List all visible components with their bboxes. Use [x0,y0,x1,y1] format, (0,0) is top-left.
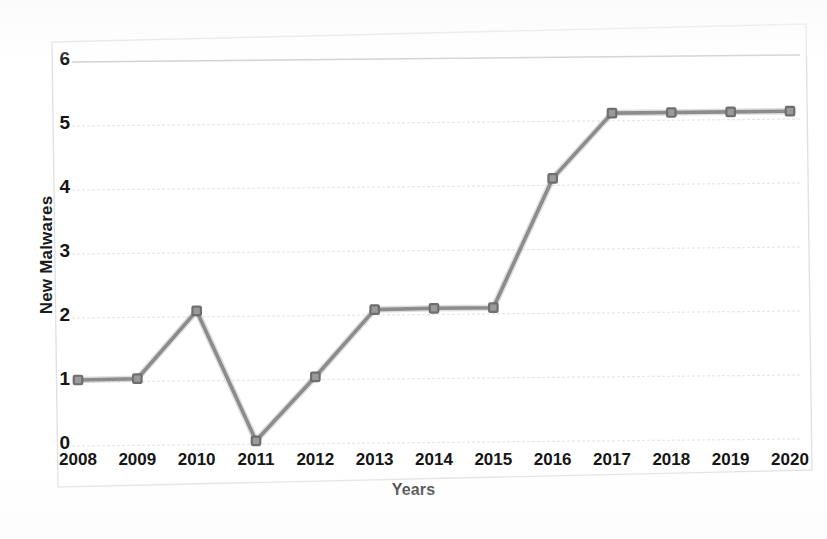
x-tick-label-2009: 2009 [107,450,167,470]
data-point-2011 [252,437,261,446]
gridline-3 [72,247,800,254]
y-axis-title: New Malwares [37,175,57,335]
x-tick-label-2013: 2013 [345,450,405,470]
data-point-2020 [786,107,795,116]
x-tick-label-2011: 2011 [226,450,286,470]
data-series-new-malwares [78,111,790,441]
data-point-2019 [726,108,735,117]
data-point-2014 [430,304,439,313]
data-point-2010 [192,307,201,316]
x-tick-label-2016: 2016 [523,450,583,470]
x-tick-label-2020: 2020 [760,450,820,470]
x-tick-label-2012: 2012 [285,450,345,470]
gridline-6 [72,55,800,62]
chart-figure: 6 5 4 3 2 1 0 20082009201020112012201320… [0,0,827,539]
x-axis-title: Years [0,481,827,499]
gridline-0 [72,439,800,446]
data-point-2018 [667,108,676,117]
data-point-2015 [489,303,498,312]
data-point-2016 [548,174,557,183]
gridline-5 [72,119,800,126]
gridline-1 [72,375,800,382]
data-point-2008 [74,376,83,385]
gridline-4 [72,183,800,190]
data-point-2013 [370,305,379,314]
x-tick-label-2017: 2017 [582,450,642,470]
x-tick-label-2008: 2008 [48,450,108,470]
y-tick-label-5: 5 [44,112,70,134]
series-markers [74,107,795,445]
y-tick-label-1: 1 [44,368,70,390]
series-line [78,111,790,441]
plot-frame [52,24,812,487]
x-tick-label-2010: 2010 [167,450,227,470]
data-point-2009 [133,374,142,383]
data-point-2017 [608,109,617,118]
x-tick-label-2019: 2019 [701,450,761,470]
x-tick-label-2018: 2018 [641,450,701,470]
data-point-2012 [311,373,320,382]
x-tick-label-2014: 2014 [404,450,464,470]
x-tick-label-2015: 2015 [463,450,523,470]
y-tick-label-6: 6 [44,48,70,70]
